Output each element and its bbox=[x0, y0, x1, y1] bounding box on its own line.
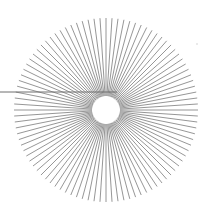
ray-line bbox=[76, 23, 101, 97]
radial-burst-diagram bbox=[0, 0, 214, 209]
speck-dot bbox=[196, 43, 198, 45]
rays-group bbox=[14, 18, 198, 202]
ray-line bbox=[19, 80, 93, 105]
ray-line bbox=[119, 80, 193, 105]
ray-line bbox=[19, 115, 93, 140]
ray-line bbox=[111, 123, 136, 197]
ray-line bbox=[76, 123, 101, 197]
ray-line bbox=[111, 23, 136, 97]
ray-line bbox=[119, 115, 193, 140]
